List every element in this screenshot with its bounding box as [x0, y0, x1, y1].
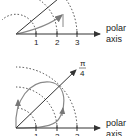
top-diagram: 1 2 3 polar axis [2, 0, 126, 47]
radial-line [16, 0, 64, 34]
tick-label-2: 2 [55, 132, 60, 136]
ray-label-4: 4 [80, 69, 85, 78]
tick-label-1: 1 [34, 132, 39, 136]
axis-label-polar: polar [106, 118, 126, 128]
tick-label-1: 1 [34, 38, 39, 47]
spiral-curve [16, 15, 62, 34]
tick-label-3: 3 [75, 38, 80, 47]
axis-label-axis: axis [106, 129, 123, 136]
bottom-diagram: π 4 1 2 3 polar axis [16, 59, 126, 136]
curve-arrow-right [62, 108, 63, 116]
tick-label-3: 3 [75, 132, 80, 136]
ray-label-pi: π [80, 59, 86, 68]
ray-pi-over-4 [16, 70, 76, 128]
tick-label-2: 2 [55, 38, 60, 47]
axis-label-axis: axis [106, 34, 123, 44]
polar-diagrams: 1 2 3 polar axis π 4 1 2 3 polar axis [0, 0, 132, 136]
axis-label-polar: polar [106, 23, 126, 33]
